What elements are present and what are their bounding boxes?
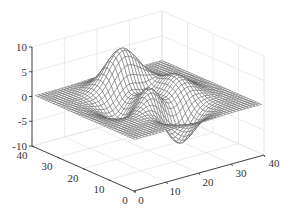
x-tick-mark (232, 164, 233, 166)
y-tick-mark (109, 180, 111, 181)
x-tick-labels: 0 10 20 30 40 (138, 157, 280, 206)
x-tick-40: 40 (269, 157, 281, 169)
x-tick-10: 10 (170, 185, 182, 197)
y-tick-40: 40 (17, 149, 29, 161)
x-tick-20: 20 (203, 176, 215, 188)
surface-plot: 10 5 0 -5 -10 0 10 20 30 40 0 10 20 30 4… (0, 0, 290, 214)
mesh-surface (35, 48, 261, 143)
z-tick-labels: 10 5 0 -5 -10 (12, 41, 27, 152)
z-tick-5: 5 (22, 66, 28, 78)
z-tick-10: 10 (16, 41, 28, 53)
z-tick-neg5: -5 (18, 115, 28, 127)
y-tick-mark (83, 169, 85, 170)
x-tick-mark (167, 182, 168, 184)
y-tick-0: 0 (122, 194, 128, 206)
x-tick-30: 30 (236, 167, 248, 179)
y-tick-30: 30 (42, 160, 54, 172)
y-tick-10: 10 (94, 183, 106, 195)
floor-gridline (83, 133, 213, 169)
x-tick-0: 0 (138, 194, 144, 206)
y-tick-mark (58, 157, 60, 158)
y-tick-20: 20 (68, 172, 80, 184)
x-tick-mark (199, 173, 200, 175)
z-tick-0: 0 (22, 91, 28, 103)
y-tick-mark (32, 146, 34, 147)
x-tick-mark (264, 155, 265, 157)
